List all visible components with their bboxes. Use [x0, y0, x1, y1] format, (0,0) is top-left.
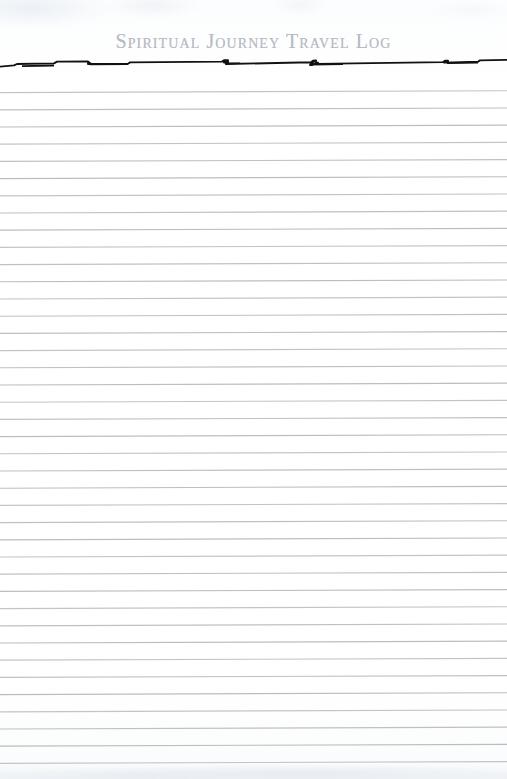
rule-line: [0, 160, 507, 162]
notebook-page: Spiritual Journey Travel Log: [0, 0, 507, 779]
torn-rule-notch-2: [90, 63, 128, 65]
rule-line: [0, 469, 507, 471]
rule-line: [0, 297, 507, 299]
rule-line: [0, 177, 507, 179]
rule-line: [0, 693, 507, 695]
rule-line: [0, 280, 507, 282]
rule-line: [0, 314, 507, 316]
torn-rule-notch-3: [225, 62, 240, 64]
rule-line: [0, 332, 507, 334]
rule-line: [0, 246, 507, 248]
rule-line: [0, 658, 507, 660]
rule-line: [0, 435, 507, 437]
rule-line: [0, 194, 507, 196]
rule-line: [0, 521, 507, 523]
rule-line: [0, 366, 507, 368]
rule-line: [0, 555, 507, 557]
torn-rule-path: [0, 60, 507, 67]
rule-lines-group: [0, 91, 507, 764]
title-divider-rule: [0, 54, 507, 72]
rule-line: [0, 125, 507, 127]
page-header: Spiritual Journey Travel Log: [0, 0, 507, 64]
rule-line: [0, 108, 507, 110]
torn-rule-notch-1: [22, 65, 54, 67]
rule-line: [0, 228, 507, 230]
rule-line: [0, 676, 507, 678]
rule-line: [0, 418, 507, 420]
rule-line: [0, 607, 507, 609]
rule-line: [0, 762, 507, 764]
rule-line: [0, 142, 507, 144]
rule-line: [0, 400, 507, 402]
rule-line: [0, 504, 507, 506]
rule-line: [0, 211, 507, 213]
rule-line: [0, 91, 507, 93]
rule-line: [0, 624, 507, 626]
ruled-lines: [0, 0, 507, 779]
rule-line: [0, 452, 507, 454]
rule-line: [0, 641, 507, 643]
rule-line: [0, 538, 507, 540]
rule-line: [0, 486, 507, 488]
rule-line: [0, 727, 507, 729]
rule-line: [0, 383, 507, 385]
rule-line: [0, 349, 507, 351]
rule-line: [0, 263, 507, 265]
rule-line: [0, 710, 507, 712]
rule-line: [0, 572, 507, 574]
rule-line: [0, 590, 507, 592]
page-title: Spiritual Journey Travel Log: [0, 30, 507, 52]
rule-line: [0, 744, 507, 746]
